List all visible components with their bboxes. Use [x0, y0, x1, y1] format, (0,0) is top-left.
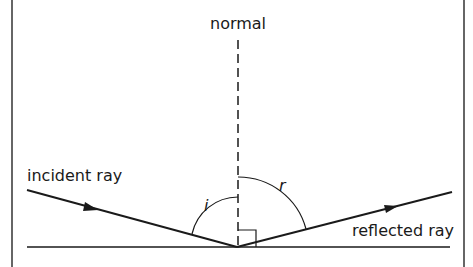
angle-r-arc — [238, 177, 306, 229]
incident-ray-label: incident ray — [27, 168, 122, 184]
reflected-ray-label: reflected ray — [352, 223, 454, 239]
normal-label: normal — [210, 16, 266, 32]
angle-r-label: r — [279, 178, 286, 194]
angle-i-label: i — [204, 198, 208, 214]
incident-arrow-icon — [83, 202, 98, 211]
diagram-frame: normal incident ray reflected ray i r — [0, 0, 473, 267]
angle-i-arc — [192, 197, 238, 234]
reflected-arrow-icon — [384, 205, 398, 213]
